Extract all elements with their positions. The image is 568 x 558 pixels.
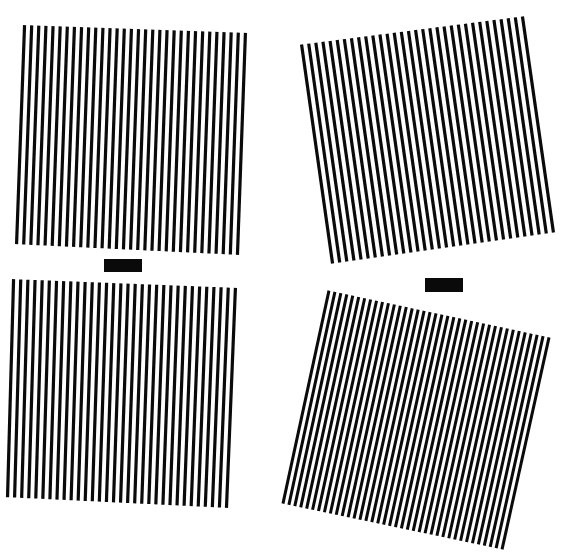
bar-left: [104, 259, 142, 272]
figure-canvas: [0, 0, 568, 558]
bar-right: [425, 278, 463, 292]
illusion-figure: [0, 0, 568, 558]
